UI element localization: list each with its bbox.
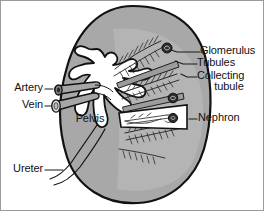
glomerulus-icon-nephron bbox=[168, 113, 177, 122]
label-artery: Artery bbox=[1, 82, 43, 94]
glomerulus-icon-upper bbox=[162, 43, 172, 53]
label-ureter: Ureter bbox=[1, 163, 43, 175]
label-nephron: Nephron bbox=[198, 112, 240, 124]
label-pelvis: Pelvis bbox=[63, 113, 117, 125]
kidney-diagram-figure: Glomerulus Tubules Collecting tubule Nep… bbox=[0, 0, 264, 211]
label-tubules: Tubules bbox=[197, 57, 235, 69]
label-glomerulus: Glomerulus bbox=[200, 45, 255, 57]
label-collecting-tubule-line2: tubule bbox=[201, 81, 257, 93]
label-vein: Vein bbox=[1, 99, 43, 111]
glomerulus-icon-middle bbox=[168, 93, 178, 103]
